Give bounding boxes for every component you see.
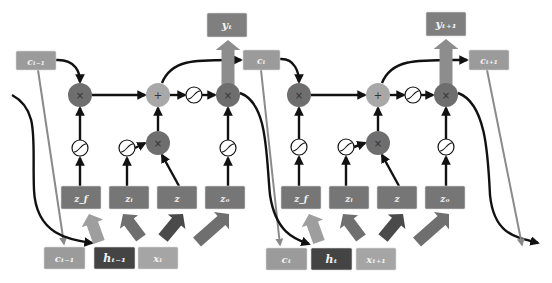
cell-t-plus-1-input-gate-box-label: zᵢ	[344, 194, 352, 204]
cell-t-output-multiply-node: ×	[216, 83, 240, 107]
cell-t-input-gate-box-label: zᵢ	[124, 194, 132, 204]
cell-t-fat-arrow-to-z-i	[120, 214, 146, 242]
cell-t-hidden-input-box: hₜ₋₁	[94, 247, 135, 269]
cell-t-input-sigmoid-node	[119, 140, 135, 156]
cell-t-cell-input-box: cₜ₋₁	[44, 247, 85, 269]
cell-t-cell-state-box-label: cₜ	[257, 56, 266, 66]
cell-t-plus-1-cell-input-box: cₜ	[266, 248, 307, 270]
cell-t-output-box-label: yₜ	[221, 19, 232, 32]
cell-t-plus-1-x-input-box: xₜ₊₁	[356, 248, 396, 270]
cell-t-arrow-z-inmul	[162, 155, 179, 186]
lstm-diagram: cₜ₋₁yₜcₜz_fzᵢzzₒcₜ₋₁hₜ₋₁xₜyₜ₊₁cₜ₊₁z_fzᵢz…	[0, 0, 552, 283]
cell-t-x-input-box: xₜ	[138, 247, 178, 269]
arrow-cprev-fmul	[56, 60, 80, 82]
cell-t-output-gate-box-label: zₒ	[219, 194, 229, 204]
cell-t-plus-1-input-gate-box: zᵢ	[329, 186, 369, 209]
arrow-ct-fmul-next	[280, 59, 299, 82]
cell-t-add-node-symbol: +	[154, 90, 162, 101]
cell-t-add-node: +	[146, 83, 170, 107]
cell-t-cell-state-box: cₜ	[243, 50, 280, 70]
cell-t-plus-1-hidden-input-box: hₜ	[311, 248, 352, 270]
cell-t-plus-1-candidate-box-label: z	[393, 194, 400, 204]
cell-t-plus-1-arrow-sigi-inmul	[354, 143, 365, 147]
cell-t-input-multiply-node: ×	[146, 131, 170, 155]
cell-t-plus-1-output-sigmoid-node	[438, 139, 454, 155]
cell-t-c-prev-box-label: cₜ₋₁	[27, 57, 45, 67]
cell-t-plus-1-output-multiply-node-symbol: ×	[442, 90, 450, 101]
cell-t-plus-1-forget-multiply-node: ×	[287, 83, 311, 107]
cell-t-forget-sigmoid-node	[72, 140, 88, 156]
arrow-cnext-out	[487, 70, 522, 245]
cell-t-c-prev-box: cₜ₋₁	[16, 51, 56, 70]
cell-t-plus-1-forget-sigmoid-node	[291, 139, 307, 155]
cell-t-plus-1-add-node-symbol: +	[374, 90, 382, 101]
cell-t-plus-1-add-node: +	[366, 83, 390, 107]
cell-t-plus-1-output-box: yₜ₊₁	[426, 12, 466, 36]
cell-t-forget-multiply-node: ×	[68, 83, 92, 107]
cell-t-hidden-input-box-label: hₜ₋₁	[103, 252, 126, 265]
cell-t-plus-1-input-sigmoid-node	[338, 139, 354, 155]
cell-t-plus-1-output-box-label: yₜ₊₁	[434, 18, 456, 31]
cell-t-plus-1-candidate-box: z	[377, 186, 417, 209]
cell-t-input-gate-box: zᵢ	[109, 186, 149, 209]
cell-t-plus-1-cell-input-box-label: cₜ	[282, 254, 292, 265]
cell-t-candidate-box-label: z	[173, 194, 180, 204]
cell-t-fat-arrow-to-z	[158, 214, 185, 242]
cell-t-plus-1-fat-arrow-to-z-o	[413, 212, 449, 247]
arrow-hnext-out	[458, 93, 538, 243]
cell-t-plus-1-fat-arrow-to-z-f	[302, 214, 325, 244]
cell-t-plus-1-cell-state-box: cₜ₊₁	[469, 50, 509, 70]
cell-t-forget-gate-box: z_f	[61, 186, 101, 209]
cell-t-candidate-box: z	[157, 186, 197, 209]
cell-t-output-multiply-node-symbol: ×	[224, 90, 232, 101]
cell-t-plus-1-input-multiply-node: ×	[366, 131, 390, 155]
cell-t-plus-1-arrow-z-inmul	[382, 155, 399, 186]
cell-t-fat-arrow-to-z-f	[82, 214, 105, 244]
cell-t-output-box: yₜ	[207, 13, 247, 37]
cell-t-output-sigmoid-node	[220, 140, 236, 156]
cell-t-plus-1-input-multiply-node-symbol: ×	[374, 138, 382, 149]
cell-t-forget-multiply-node-symbol: ×	[76, 90, 84, 101]
cell-t-plus-1-forget-multiply-node-symbol: ×	[295, 90, 303, 101]
cell-t-plus-1-hidden-input-box-label: hₜ	[325, 253, 337, 266]
cell-t-tanh-node	[186, 87, 202, 103]
cell-t-input-multiply-node-symbol: ×	[154, 138, 162, 149]
cell-t-plus-1-fat-arrow-to-z-i	[340, 214, 366, 242]
cell-t-plus-1-forget-gate-box: z_f	[281, 186, 321, 209]
cell-t-output-gate-box: zₒ	[205, 186, 245, 209]
cell-t-plus-1-tanh-node	[405, 87, 421, 103]
cell-t-x-input-box-label: xₜ	[152, 253, 163, 264]
cell-t-forget-gate-box-label: z_f	[73, 194, 90, 204]
cell-t-cell-input-box-label: cₜ₋₁	[55, 253, 74, 264]
cell-t-plus-1-forget-gate-box-label: z_f	[293, 194, 310, 204]
cell-t-fat-arrow-to-y	[216, 40, 241, 85]
cell-t-plus-1-output-gate-box-label: zₒ	[439, 194, 449, 204]
cell-t-plus-1-arrow-add-cout	[382, 60, 467, 83]
cell-t-plus-1-cell-state-box-label: cₜ₊₁	[480, 56, 498, 66]
cell-t-plus-1-x-input-box-label: xₜ₊₁	[365, 254, 385, 265]
cell-t-plus-1-output-gate-box: zₒ	[425, 186, 465, 209]
cell-t-plus-1-output-multiply-node: ×	[434, 83, 458, 107]
cell-t-plus-1-fat-arrow-to-z	[378, 214, 405, 242]
cell-t-fat-arrow-to-z-o	[193, 212, 229, 247]
cell-t-arrow-sigi-inmul	[135, 143, 145, 148]
cell-t-plus-1-fat-arrow-to-y	[434, 39, 459, 85]
